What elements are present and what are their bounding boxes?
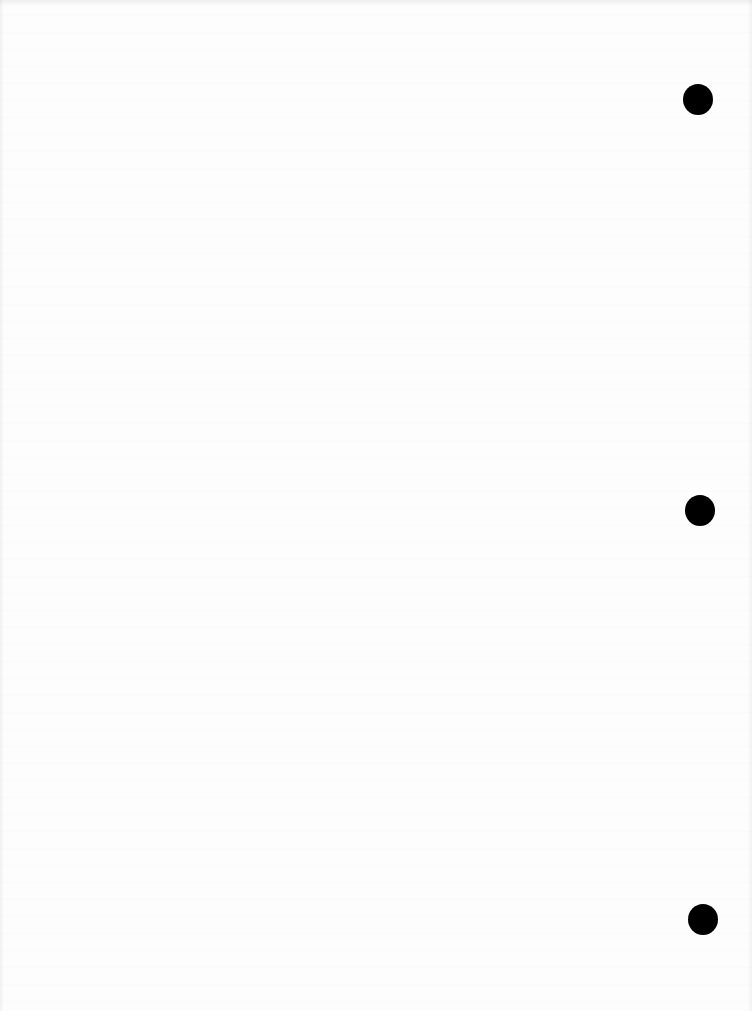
scan-bleed-through-texture — [0, 0, 752, 1011]
scan-top-edge-shadow — [0, 0, 752, 6]
scan-right-edge-shadow — [748, 0, 752, 1011]
blank-scanned-page — [0, 0, 752, 1011]
punch-hole-top — [683, 84, 713, 115]
punch-hole-middle — [685, 495, 715, 526]
punch-hole-bottom — [688, 904, 718, 935]
scan-left-edge-shadow — [0, 0, 4, 1011]
